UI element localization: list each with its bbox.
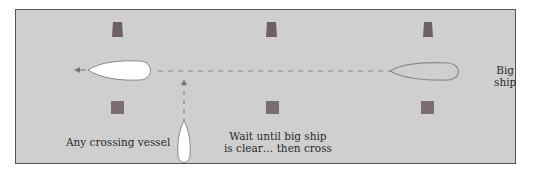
buoy-marker-icon <box>266 22 277 37</box>
square-marker-icon <box>421 101 434 114</box>
bottom-markers <box>111 101 434 114</box>
big-ship-label-line1: Big <box>494 64 516 76</box>
small-vessel-icon <box>88 61 151 80</box>
wait-instruction-line2: is clear… then cross <box>224 142 332 154</box>
buoy-marker-icon <box>112 22 123 37</box>
square-marker-icon <box>266 101 279 114</box>
big-ship-icon <box>390 63 459 80</box>
top-markers <box>112 22 433 37</box>
crossing-vessel-icon <box>178 121 191 163</box>
channel-diagram <box>0 0 542 187</box>
big-ship-label-line2: ship <box>494 76 516 88</box>
arrow-up-icon <box>181 79 187 85</box>
buoy-marker-icon <box>423 22 433 37</box>
crossing-vessel-label: Any crossing vessel <box>66 136 170 148</box>
wait-instruction-label: Wait until big ship is clear… then cross <box>224 130 332 154</box>
square-marker-icon <box>111 101 124 114</box>
arrow-left-icon <box>74 67 86 73</box>
wait-instruction-line1: Wait until big ship <box>224 130 332 142</box>
big-ship-label: Big ship <box>494 64 516 88</box>
